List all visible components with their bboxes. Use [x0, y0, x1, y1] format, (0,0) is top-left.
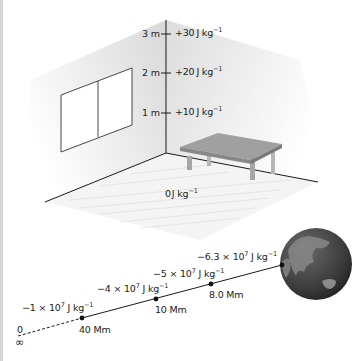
- potential-label-30: +30J kg−1: [175, 28, 222, 38]
- point-10mm: [154, 297, 159, 302]
- potential-label-10: +10J kg−1: [175, 107, 222, 117]
- height-label-3m: 3 m: [142, 29, 160, 39]
- potential-label-20: +20J kg−1: [175, 67, 222, 77]
- potential-label-8mm: −5 × 107 J kg−1: [153, 269, 224, 279]
- infinity-potential-label: 0: [17, 325, 23, 335]
- floor-potential-label: 0J kg−1: [165, 189, 198, 199]
- distance-label-40mm: 40 Mm: [79, 325, 111, 335]
- point-40mm: [80, 316, 85, 321]
- potential-label-40mm: −1 × 107 J kg−1: [22, 303, 93, 313]
- point-8mm: [209, 282, 214, 287]
- height-label-2m: 2 m: [142, 68, 160, 78]
- infinity-distance-label: ∞: [15, 337, 24, 348]
- point-surface: [280, 263, 285, 268]
- distance-label-8mm: 8.0 Mm: [209, 290, 243, 300]
- height-label-1m: 1 m: [142, 108, 160, 118]
- potential-label-10mm: −4 × 107 J kg−1: [97, 284, 168, 294]
- distance-label-10mm: 10 Mm: [155, 305, 187, 315]
- surface-potential-label: −6.3 × 107 J kg−1: [197, 252, 277, 262]
- earth-globe: [280, 228, 352, 300]
